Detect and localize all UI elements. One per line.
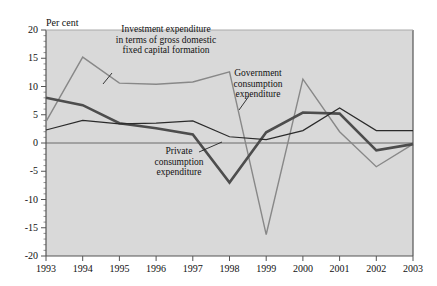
private-consumption-annotation: Privateconsumptionexpenditure: [140, 146, 218, 178]
y-axis-ticks: [41, 30, 46, 256]
y-tick-label: 15: [8, 52, 38, 63]
y-tick-label: 5: [8, 109, 38, 120]
annotation-line: Private: [140, 146, 218, 157]
investment-expenditure-annotation: Investment expenditurein terms of gross …: [98, 24, 234, 56]
y-tick-label: 10: [8, 81, 38, 92]
y-tick-label: -5: [8, 165, 38, 176]
y-tick-label: 0: [8, 137, 38, 148]
annotation-line: expenditure: [140, 167, 218, 178]
annotation-line: in terms of gross domestic: [98, 35, 234, 46]
x-tick-label: 2000: [283, 263, 323, 274]
x-tick-label: 1997: [173, 263, 213, 274]
y-tick-label: -15: [8, 222, 38, 233]
x-tick-label: 1994: [63, 263, 103, 274]
government-consumption-annotation: Governmentconsumptionexpenditure: [219, 68, 297, 100]
x-tick-label: 1995: [99, 263, 139, 274]
annotation-line: Government: [219, 68, 297, 79]
annotation-line: consumption: [219, 79, 297, 90]
annotation-line: consumption: [140, 157, 218, 168]
annotation-line: fixed capital formation: [98, 45, 234, 56]
x-tick-label: 1999: [246, 263, 286, 274]
x-tick-label: 1998: [210, 263, 250, 274]
y-tick-label: -20: [8, 250, 38, 261]
x-axis-ticks: [46, 256, 413, 261]
x-tick-label: 2003: [393, 263, 433, 274]
y-tick-label: -10: [8, 194, 38, 205]
x-tick-label: 1996: [136, 263, 176, 274]
x-tick-label: 2002: [356, 263, 396, 274]
annotation-line: expenditure: [219, 89, 297, 100]
annotation-line: Investment expenditure: [98, 24, 234, 35]
x-tick-label: 1993: [26, 263, 66, 274]
x-tick-label: 2001: [320, 263, 360, 274]
chart-figure: Per cent 20151050-5-10-15-20 19931994199…: [0, 0, 437, 286]
y-tick-label: 20: [8, 24, 38, 35]
